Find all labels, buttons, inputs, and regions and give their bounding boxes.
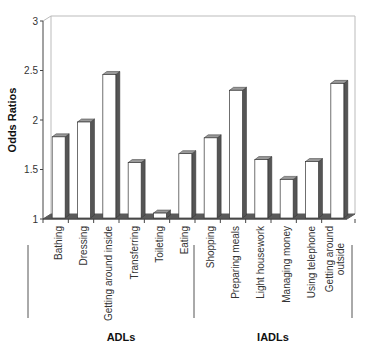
x-axis: [43, 219, 355, 223]
bar: [230, 87, 247, 218]
category-label: Bathing: [53, 226, 64, 260]
bar: [52, 134, 69, 218]
category-label: Dressing: [78, 226, 89, 265]
category-label: Toileting: [154, 226, 165, 263]
bar: [204, 135, 221, 218]
bar: [103, 71, 120, 218]
group-label: IADLs: [257, 331, 289, 343]
odds-ratio-chart: 11.522.53 BathingDressingGetting around …: [0, 0, 367, 352]
category-label: Eating: [179, 226, 190, 254]
bar: [78, 119, 95, 218]
category-label: Preparing meals: [230, 226, 241, 299]
bar: [128, 160, 145, 218]
category-labels: BathingDressingGetting around insideTran…: [53, 225, 347, 321]
bars: [52, 71, 348, 218]
category-label: Managing money: [281, 226, 292, 303]
group-label: ADLs: [107, 331, 136, 343]
bar: [179, 151, 196, 218]
y-tick-label: 1: [32, 214, 38, 225]
category-label: Getting around inside: [103, 226, 114, 322]
category-label: Shopping: [205, 226, 216, 268]
bar: [280, 176, 297, 218]
y-tick-label: 1.5: [24, 164, 38, 175]
bar: [154, 210, 171, 218]
y-axis: 11.522.53: [24, 16, 43, 225]
y-tick-label: 2.5: [24, 65, 38, 76]
y-tick-label: 2: [32, 115, 38, 126]
y-tick-label: 3: [32, 16, 38, 27]
category-label: Transferring: [129, 226, 140, 280]
bar: [306, 159, 323, 218]
bar: [255, 157, 272, 218]
group-labels: ADLsIADLs: [28, 245, 352, 343]
bar: [331, 80, 348, 218]
category-label: Light housework: [255, 225, 266, 299]
category-label: Using telephone: [306, 226, 317, 299]
y-axis-title: Odds Ratios: [6, 88, 18, 153]
category-label: Getting aroundoutside: [324, 226, 346, 292]
